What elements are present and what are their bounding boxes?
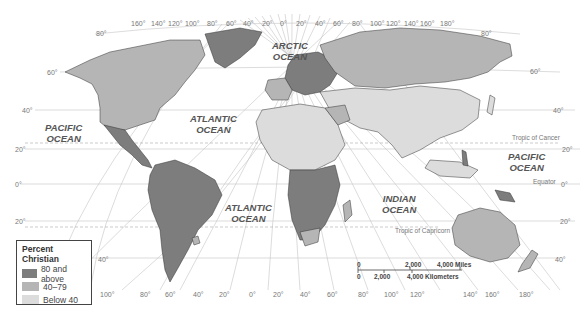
lat-label: 40° [555, 256, 566, 263]
lon-label: 0° [280, 20, 287, 27]
lon-label: 20° [262, 20, 273, 27]
lon-label: 100° [100, 291, 114, 298]
atlantic-ocean-south-line2: OCEAN [225, 213, 272, 224]
lat-label: 60° [47, 69, 58, 76]
lon-label: 100° [370, 20, 384, 27]
lon-label: 100° [185, 20, 199, 27]
legend-title: Percent Christian [22, 244, 86, 264]
lon-label: 120° [386, 20, 400, 27]
legend-item-high: 80 and above [22, 267, 86, 280]
lon-label: 180° [440, 20, 454, 27]
lon-label: 40° [243, 20, 254, 27]
lon-label: 140° [151, 20, 165, 27]
lon-label: 180° [519, 291, 533, 298]
legend-swatch-high [22, 269, 37, 278]
tropic-of-cancer-label: Tropic of Cancer [512, 134, 560, 141]
lon-label: 60° [327, 291, 338, 298]
atlantic-ocean-south-label: ATLANTIC OCEAN [225, 202, 272, 224]
lon-label: 40° [300, 291, 311, 298]
lon-label: 60° [165, 291, 176, 298]
scale-km-mid: 2,000 [374, 273, 390, 280]
atlantic-ocean-north-line1: ATLANTIC [190, 113, 237, 124]
lon-label: 80° [358, 291, 369, 298]
lon-label: 40° [315, 20, 326, 27]
legend-label-mid: 40–79 [43, 282, 67, 292]
lon-label: 60° [226, 20, 237, 27]
lon-label: 120° [410, 291, 424, 298]
lon-label: 80° [352, 20, 363, 27]
pacific-ocean-west-line1: PACIFIC [45, 122, 82, 133]
lat-label: 0° [561, 181, 568, 188]
pacific-ocean-east-label: PACIFIC OCEAN [508, 151, 545, 173]
lon-label: 160° [485, 291, 499, 298]
legend-swatch-mid [22, 282, 39, 291]
lon-label: 60° [333, 20, 344, 27]
new-zealand [518, 250, 538, 272]
indian-ocean-label: INDIAN OCEAN [382, 193, 416, 215]
lon-label: 20° [219, 291, 230, 298]
scale-bar-line [352, 255, 472, 285]
atlantic-ocean-north-line2: OCEAN [190, 124, 237, 135]
lat-label: 80° [481, 30, 492, 37]
lon-label: 80° [207, 20, 218, 27]
russia [320, 28, 512, 88]
greenland [205, 28, 262, 68]
lon-label: 120° [168, 20, 182, 27]
africa-south [288, 165, 340, 240]
atlantic-ocean-south-line1: ATLANTIC [225, 202, 272, 213]
legend-label-high: 80 and above [41, 264, 86, 284]
lon-label: 80° [140, 291, 151, 298]
lon-label: 140° [463, 291, 477, 298]
arctic-ocean-line2: OCEAN [272, 51, 308, 62]
tropic-of-capricorn-label: Tropic of Capricorn [395, 227, 450, 234]
lon-label: 160° [420, 20, 434, 27]
papua-new-guinea [495, 190, 515, 202]
lon-label: 40° [193, 291, 204, 298]
scale-km-end: 4,000 Kilometers [407, 273, 459, 280]
lon-label: 140° [404, 20, 418, 27]
legend-item-low: Below 40 [22, 293, 86, 306]
scale-km-zero: 0 [357, 273, 361, 280]
scale-bar: 0 2,000 4,000 Miles 0 2,000 4,000 Kilome… [352, 255, 472, 285]
pacific-ocean-east-line2: OCEAN [508, 162, 545, 173]
pacific-ocean-east-line1: PACIFIC [508, 151, 545, 162]
lat-label: 40° [98, 256, 109, 263]
arctic-ocean-label: ARCTIC OCEAN [272, 40, 308, 62]
lon-label: 20° [273, 291, 284, 298]
lat-label: 20° [15, 146, 26, 153]
australia [452, 208, 520, 262]
lat-label: 20° [560, 218, 571, 225]
pacific-ocean-west-line2: OCEAN [45, 133, 82, 144]
legend-label-low: Below 40 [43, 295, 78, 305]
lat-label: 40° [22, 107, 33, 114]
lat-label: 20° [562, 146, 573, 153]
legend: Percent Christian 80 and above 40–79 Bel… [16, 240, 92, 305]
equator-label: Equator [533, 178, 556, 185]
indian-ocean-line1: INDIAN [382, 193, 416, 204]
arctic-ocean-line1: ARCTIC [272, 40, 308, 51]
lat-label: 40° [553, 107, 564, 114]
lon-label: 160° [131, 20, 145, 27]
atlantic-ocean-north-label: ATLANTIC OCEAN [190, 113, 237, 135]
lon-label: 0° [249, 291, 256, 298]
lat-label: 20° [15, 218, 26, 225]
lat-label: 0° [15, 181, 22, 188]
mexico-central-america [104, 125, 152, 168]
lat-label: 60° [530, 68, 541, 75]
north-america [65, 40, 205, 130]
lat-label: 80° [96, 30, 107, 37]
indian-ocean-line2: OCEAN [382, 204, 416, 215]
lon-label: 100° [384, 291, 398, 298]
legend-swatch-low [22, 295, 39, 304]
pacific-ocean-west-label: PACIFIC OCEAN [45, 122, 82, 144]
lon-label: 20° [296, 20, 307, 27]
